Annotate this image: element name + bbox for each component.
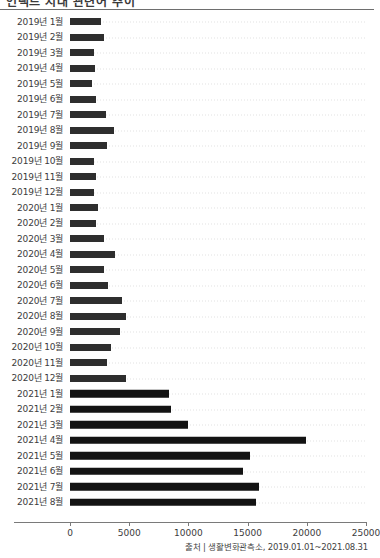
- category-label: 2019년 10월: [0, 156, 63, 166]
- bar-track: [70, 450, 366, 461]
- bar-track: [70, 466, 366, 477]
- bar: [70, 189, 94, 196]
- chart-row: 2021년 3월: [0, 417, 374, 433]
- category-label: 2021년 8월: [0, 497, 63, 507]
- bar-track: [70, 202, 366, 213]
- bar: [70, 173, 96, 180]
- bar: [70, 49, 94, 56]
- chart-row: 2020년 8월: [0, 309, 374, 325]
- chart-row: 2019년 10월: [0, 154, 374, 170]
- category-label: 2021년 1월: [0, 389, 63, 399]
- gridline: [70, 347, 366, 348]
- chart-row: 2019년 2월: [0, 30, 374, 46]
- x-axis-tick: [70, 522, 71, 526]
- bar: [70, 359, 107, 366]
- category-label: 2019년 6월: [0, 94, 63, 104]
- chart-row: 2021년 4월: [0, 433, 374, 449]
- bar-track: [70, 156, 366, 167]
- category-label: 2019년 8월: [0, 125, 63, 135]
- chart-row: 2020년 2월: [0, 216, 374, 232]
- category-label: 2019년 9월: [0, 141, 63, 151]
- bar: [70, 499, 256, 507]
- bar: [70, 111, 106, 118]
- chart-row: 2021년 2월: [0, 402, 374, 418]
- bar: [70, 96, 96, 103]
- bar-track: [70, 94, 366, 105]
- gridline: [70, 223, 366, 224]
- chart-row: 2019년 12월: [0, 185, 374, 201]
- category-label: 2021년 2월: [0, 404, 63, 414]
- gridline: [70, 99, 366, 100]
- bar-track: [70, 187, 366, 198]
- category-label: 2019년 12월: [0, 187, 63, 197]
- bar-track: [70, 264, 366, 275]
- gridline: [70, 68, 366, 69]
- chart-row: 2020년 6월: [0, 278, 374, 294]
- bar: [70, 406, 171, 414]
- chart-row: 2019년 8월: [0, 123, 374, 139]
- bar: [70, 34, 104, 41]
- chart-row: 2019년 7월: [0, 107, 374, 123]
- bar-track: [70, 140, 366, 151]
- category-label: 2019년 2월: [0, 32, 63, 42]
- x-axis-tick-label: 5000: [118, 528, 141, 538]
- bar: [70, 80, 92, 87]
- bar-track: [70, 435, 366, 446]
- bar: [70, 127, 114, 134]
- gridline: [70, 285, 366, 286]
- bar-track: [70, 357, 366, 368]
- category-label: 2020년 4월: [0, 249, 63, 259]
- gridline: [70, 53, 366, 54]
- category-label: 2019년 7월: [0, 110, 63, 120]
- chart-row: 2019년 4월: [0, 61, 374, 77]
- gridline: [70, 208, 366, 209]
- bar-track: [70, 63, 366, 74]
- category-label: 2020년 1월: [0, 203, 63, 213]
- bar: [70, 266, 104, 273]
- category-label: 2020년 2월: [0, 218, 63, 228]
- x-axis-tick: [307, 522, 308, 526]
- header-divider: [0, 9, 374, 10]
- bar-track: [70, 342, 366, 353]
- category-label: 2019년 11월: [0, 172, 63, 182]
- bar-track: [70, 497, 366, 508]
- category-label: 2019년 3월: [0, 48, 63, 58]
- bar: [70, 344, 111, 351]
- bar-track: [70, 388, 366, 399]
- clipped-title: 언택트 시대 관련어 추이: [6, 0, 135, 9]
- category-label: 2019년 1월: [0, 17, 63, 27]
- bar-chart-plot: 2019년 1월2019년 2월2019년 3월2019년 4월2019년 5월…: [0, 14, 374, 522]
- chart-row: 2019년 11월: [0, 169, 374, 185]
- bar: [70, 220, 96, 227]
- category-label: 2020년 8월: [0, 311, 63, 321]
- category-label: 2021년 7월: [0, 482, 63, 492]
- chart-row: 2020년 11월: [0, 355, 374, 371]
- chart-row: 2019년 9월: [0, 138, 374, 154]
- chart-row: 2020년 12월: [0, 371, 374, 387]
- gridline: [70, 115, 366, 116]
- bar-track: [70, 280, 366, 291]
- chart-row: 2019년 5월: [0, 76, 374, 92]
- gridline: [70, 363, 366, 364]
- chart-row: 2019년 1월: [0, 14, 374, 30]
- bar-track: [70, 311, 366, 322]
- gridline: [70, 239, 366, 240]
- bar: [70, 142, 107, 149]
- category-label: 2021년 4월: [0, 435, 63, 445]
- category-label: 2020년 6월: [0, 280, 63, 290]
- gridline: [70, 37, 366, 38]
- chart-row: 2020년 7월: [0, 293, 374, 309]
- category-label: 2020년 7월: [0, 296, 63, 306]
- chart-row: 2020년 1월: [0, 200, 374, 216]
- category-label: 2020년 12월: [0, 373, 63, 383]
- bar: [70, 468, 243, 476]
- bar: [70, 390, 169, 398]
- bar: [70, 375, 126, 382]
- chart-row: 2020년 10월: [0, 340, 374, 356]
- source-note: 출처 | 생활변화관측소, 2019.01.01~2021.08.31: [185, 540, 368, 552]
- bar-track: [70, 47, 366, 58]
- bar-track: [70, 373, 366, 384]
- category-label: 2020년 11월: [0, 358, 63, 368]
- x-axis-tick: [188, 522, 189, 526]
- category-label: 2020년 9월: [0, 327, 63, 337]
